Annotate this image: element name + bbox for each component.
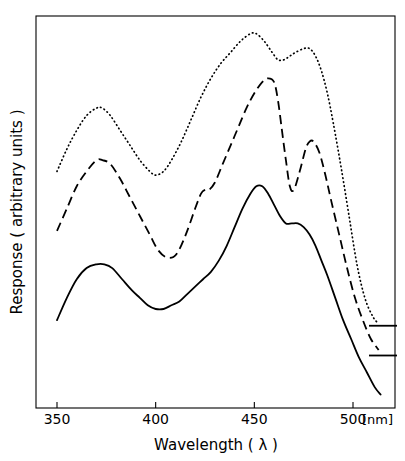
chart-canvas: 350400450500 [nm] Wavelength ( λ ) Respo… — [0, 0, 405, 461]
plot-frame — [36, 16, 395, 408]
x-axis-tick-label: 450 — [241, 411, 268, 427]
x-axis-tick-labels: 350400450500 — [44, 411, 367, 427]
y-axis-title: Response ( arbitrary units ) — [8, 109, 26, 314]
x-axis-tick-label: 350 — [44, 411, 71, 427]
x-axis-unit-label: [nm] — [362, 412, 393, 427]
x-axis-tick-label: 400 — [142, 411, 169, 427]
x-axis-title: Wavelength ( λ ) — [154, 436, 278, 454]
spectral-response-figure: 350400450500 [nm] Wavelength ( λ ) Respo… — [0, 0, 405, 461]
